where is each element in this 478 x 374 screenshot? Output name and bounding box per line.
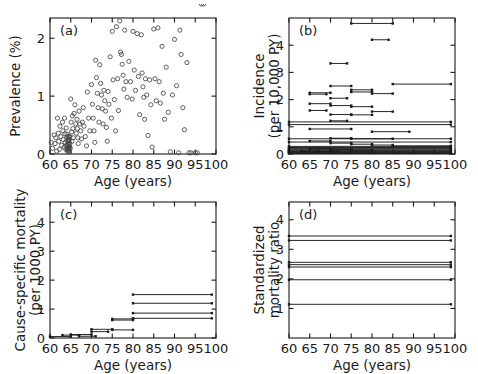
x-tick-label: 75 (343, 157, 360, 172)
scatter-point (109, 116, 113, 120)
scatter-point (152, 27, 156, 31)
x-tick-label: 90 (405, 341, 422, 356)
segment-endpoint-marker (371, 114, 373, 116)
data-layer (288, 22, 452, 154)
scatter-point (154, 99, 158, 103)
x-tick-label: 65 (62, 341, 79, 356)
segment-endpoint-marker (288, 239, 290, 241)
segment-endpoint-marker (350, 128, 352, 130)
scatter-point (62, 116, 66, 120)
scatter-point (122, 87, 126, 91)
segment-endpoint-marker (288, 279, 290, 281)
x-tick-label: 65 (301, 341, 318, 356)
scatter-point (120, 62, 124, 66)
scatter-point (168, 150, 172, 154)
segment-endpoint-marker (288, 152, 290, 154)
scatter-point (69, 97, 73, 101)
scatter-point (143, 117, 147, 121)
panel-a-prevalence: 6065707580859095100012(a)Age (years)Prev… (0, 4, 239, 190)
data-layer (288, 235, 452, 306)
scatter-point (103, 99, 107, 103)
y-axis-label: mortality ratio (266, 222, 282, 319)
scatter-point (132, 68, 136, 72)
scatter-point (153, 77, 157, 81)
segment-endpoint-marker (350, 91, 352, 93)
scatter-point (79, 129, 83, 133)
x-tick-label: 80 (125, 341, 142, 356)
segment-endpoint-marker (211, 317, 213, 319)
y-axis-label: Standardized (251, 225, 267, 314)
panel-b-incidence: 606570758085909510001234(b)Age (years)In… (239, 4, 478, 190)
y-axis: 01234 (276, 38, 455, 162)
segment-endpoint-marker (371, 39, 373, 41)
segment-endpoint-marker (309, 128, 311, 130)
panel-label: (c) (60, 207, 77, 222)
scatter-point (140, 71, 144, 75)
scatter-point (105, 139, 109, 143)
segment-endpoint-marker (450, 141, 452, 143)
scatter-point (58, 124, 62, 128)
segment-endpoint-marker (371, 105, 373, 107)
segment-endpoint-marker (329, 85, 331, 87)
scatter-point (92, 129, 96, 133)
x-tick-label: 80 (125, 157, 142, 172)
segment-endpoint-marker (371, 130, 373, 132)
x-tick-label: 85 (384, 341, 401, 356)
scatter-point (94, 58, 98, 62)
segment-endpoint-marker (309, 109, 311, 111)
segment-endpoint-marker (450, 263, 452, 265)
scatter-point (90, 102, 94, 106)
scatter-point (156, 26, 160, 30)
segment-endpoint-marker (329, 62, 331, 64)
scatter-point (174, 84, 178, 88)
scatter-point (139, 33, 143, 37)
scatter-point (75, 117, 79, 121)
scatter-point (141, 85, 145, 89)
segment-endpoint-marker (132, 293, 134, 295)
segment-endpoint-marker (371, 149, 373, 151)
segment-endpoint-marker (309, 102, 311, 104)
scatter-point (124, 80, 128, 84)
segment-endpoint-marker (111, 329, 113, 331)
scatter-point (112, 98, 116, 102)
scatter-point (185, 60, 189, 64)
scatter-point (143, 77, 147, 81)
scatter-point (150, 145, 154, 149)
y-axis-label: (per 10,000 PY) (266, 34, 282, 139)
segment-endpoint-marker (392, 92, 394, 94)
scatter-point (107, 102, 111, 106)
x-tick-label: 85 (145, 157, 162, 172)
scatter-point (93, 140, 97, 144)
segment-endpoint-marker (350, 114, 352, 116)
segment-endpoint-marker (346, 62, 348, 64)
x-tick-label: 80 (364, 341, 381, 356)
segment-endpoint-marker (111, 319, 113, 321)
segment-endpoint-marker (371, 110, 373, 112)
segment-endpoint-marker (288, 266, 290, 268)
scatter-point (83, 135, 87, 139)
scatter-point (181, 106, 185, 110)
scatter-point (158, 101, 162, 105)
scatter-point (98, 63, 102, 67)
segment-endpoint-marker (325, 109, 327, 111)
x-axis-label: Age (years) (333, 357, 411, 373)
segment-endpoint-marker (94, 335, 96, 337)
scatter-point (74, 122, 78, 126)
x-tick-label: 95 (187, 157, 204, 172)
segment-endpoint-marker (371, 89, 373, 91)
x-tick-label: 75 (343, 341, 360, 356)
y-axis-label: Incidence (251, 54, 267, 119)
scatter-point (136, 74, 140, 78)
segment-endpoint-marker (329, 92, 331, 94)
segment-endpoint-marker (107, 330, 109, 332)
panel-b-plot: 606570758085909510001234(b)Age (years)In… (239, 4, 478, 190)
segment-endpoint-marker (408, 130, 410, 132)
plot-frame (289, 18, 455, 154)
segment-endpoint-marker (78, 335, 80, 337)
scatter-point (77, 109, 81, 113)
x-tick-label: 90 (405, 157, 422, 172)
scatter-point (148, 78, 152, 82)
segment-endpoint-marker (288, 141, 290, 143)
segment-endpoint-marker (350, 85, 352, 87)
segment-endpoint-marker (338, 150, 340, 152)
